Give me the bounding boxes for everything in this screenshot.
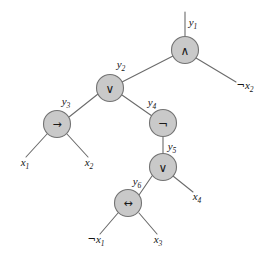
gate-node-y5[interactable]: ∨: [150, 154, 177, 181]
wire-label-y6: y6: [132, 175, 142, 190]
formula-tree-diagram: ∧∨→¬∨↔ y1y2y3y4y5y6 x1x2¬x2x4¬x1x3: [0, 0, 268, 257]
operator-glyph-y3: →: [52, 118, 61, 131]
wire-label-y1: y1: [188, 16, 198, 31]
leaf-not-x2: ¬x2: [236, 79, 253, 94]
wire-label-y4: y4: [147, 96, 157, 111]
wire-label-y2: y2: [116, 58, 126, 73]
leaf-labels-group: x1x2¬x2x4¬x1x3: [20, 79, 254, 248]
leaf-x3: x3: [153, 233, 163, 248]
operator-glyph-y5: ∨: [159, 161, 168, 175]
wire-label-y5: y5: [167, 140, 177, 155]
edge-y1-to-y2: [122, 56, 173, 82]
edge-y3-to-x1: [26, 134, 47, 157]
leaf-x1: x1: [20, 156, 30, 171]
operator-glyph-y4: ¬: [158, 117, 168, 131]
wire-label-y3: y3: [61, 95, 71, 110]
gate-node-y2[interactable]: ∨: [97, 75, 124, 102]
leaf-x4: x4: [192, 190, 202, 205]
gate-node-y6[interactable]: ↔: [115, 190, 142, 217]
leaf-not-x1: ¬x1: [87, 233, 104, 248]
gate-node-y1[interactable]: ∧: [172, 37, 199, 64]
gate-node-y4[interactable]: ¬: [150, 110, 177, 137]
edge-y2-to-y3: [69, 94, 98, 117]
edge-y6-to-not-x1: [100, 213, 118, 234]
edge-y6-to-x3: [139, 213, 157, 234]
operator-glyph-y2: ∨: [106, 82, 115, 96]
tree-canvas: ∧∨→¬∨↔ y1y2y3y4y5y6 x1x2¬x2x4¬x1x3: [0, 0, 268, 257]
edge-y3-to-x2: [67, 134, 88, 157]
operator-glyph-y1: ∧: [181, 44, 190, 58]
gate-node-y3[interactable]: →: [44, 111, 71, 138]
edge-y5-to-x4: [173, 176, 193, 192]
operator-glyph-y6: ↔: [123, 197, 132, 210]
edge-y1-to-not-x2: [196, 58, 236, 82]
leaf-x2: x2: [84, 156, 94, 171]
